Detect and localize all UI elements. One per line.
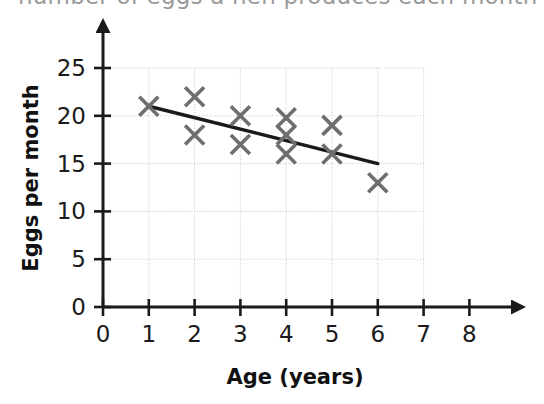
- data-point-marker: [185, 87, 204, 106]
- x-tick-label: 2: [187, 321, 202, 347]
- x-tick-label: 0: [96, 321, 111, 347]
- data-point-marker: [368, 173, 387, 192]
- x-axis-title: Age (years): [227, 365, 364, 389]
- x-tick-label: 3: [233, 321, 248, 347]
- data-point-marker: [277, 108, 296, 127]
- y-tick-labels-group: 0510152025: [57, 55, 86, 320]
- x-tick-label: 5: [325, 321, 340, 347]
- x-tick-label: 8: [462, 321, 477, 347]
- x-tick-label: 6: [370, 321, 385, 347]
- x-tick-label: 4: [279, 321, 294, 347]
- trend-line: [149, 106, 378, 163]
- data-point-marker: [277, 145, 296, 164]
- data-point-marker: [231, 135, 250, 154]
- x-tick-label: 7: [416, 321, 431, 347]
- x-tick-label: 1: [141, 321, 156, 347]
- y-tick-label: 15: [57, 151, 86, 177]
- x-tick-labels-group: 012345678: [96, 321, 477, 347]
- y-tick-label: 10: [57, 198, 86, 224]
- y-axis-title: Eggs per month: [19, 84, 43, 271]
- data-points-group: [139, 87, 387, 192]
- y-tick-label: 20: [57, 103, 86, 129]
- data-point-marker: [323, 116, 342, 135]
- plot-canvas: 012345678 0510152025 Age (years) Eggs pe…: [0, 0, 544, 404]
- scatter-plot-figure: number of eggs a hen produces each month…: [0, 0, 544, 404]
- y-tick-label: 0: [71, 294, 86, 320]
- y-tick-label: 25: [57, 55, 86, 81]
- y-tick-label: 5: [71, 246, 86, 272]
